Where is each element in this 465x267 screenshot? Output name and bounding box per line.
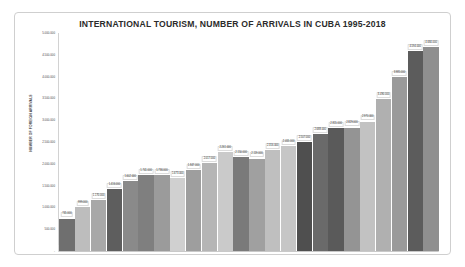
bar-group[interactable]: 2.261.000 [218, 33, 233, 251]
chart-frame: INTERNATIONAL TOURISM, NUMBER OF ARRIVAL… [14, 12, 451, 255]
bar-group[interactable]: 2.017.000 [202, 33, 217, 251]
bar[interactable] [233, 157, 248, 251]
bar-group[interactable]: 1.741.000 [138, 33, 153, 251]
plot-area: 745.000999.0001.170.0001.416.0001.602.00… [59, 33, 439, 251]
bar-value-label: 1.847.000 [186, 164, 201, 169]
y-axis-tick-label: 2.500.000 [21, 141, 55, 144]
bar-value-label: 1.741.000 [139, 169, 154, 174]
bar-group[interactable]: 999.000 [75, 33, 90, 251]
chart-title: INTERNATIONAL TOURISM, NUMBER OF ARRIVAL… [15, 19, 450, 29]
bar[interactable] [297, 142, 312, 251]
y-axis-tick-label: 4.500.000 [21, 53, 55, 56]
bar-value-label: 1.170.000 [91, 193, 106, 198]
bar-value-label: 1.416.000 [107, 183, 122, 188]
bar-value-label: 1.673.000 [170, 171, 185, 176]
bar-value-label: 2.017.000 [202, 156, 217, 161]
y-axis-tick-label: 1.000.000 [21, 206, 55, 209]
bar-value-label: 4.594.000 [408, 44, 423, 49]
bar-group[interactable]: 4.684.000 [423, 33, 438, 251]
y-axis-tick-labels: -500.0001.000.0001.500.0002.000.0002.500… [23, 13, 57, 256]
y-axis-tick-label: 5.000.000 [21, 32, 55, 35]
bar-value-label: 2.316.000 [265, 143, 280, 148]
bar-value-label: 2.119.000 [250, 152, 265, 157]
bar-group[interactable]: 2.507.000 [297, 33, 312, 251]
bar[interactable] [91, 200, 106, 251]
bar-value-label: 3.490.000 [376, 92, 391, 97]
bar-value-label: 2.150.000 [234, 151, 249, 156]
bar[interactable] [360, 122, 375, 251]
y-axis-tick-label: 500.000 [21, 228, 55, 231]
bar[interactable] [313, 134, 328, 251]
y-axis-tick-label: 3.500.000 [21, 97, 55, 100]
bar-group[interactable]: 2.119.000 [249, 33, 264, 251]
bar[interactable] [281, 146, 296, 251]
bar[interactable] [170, 178, 185, 251]
bar-group[interactable]: 1.673.000 [170, 33, 185, 251]
bar[interactable] [218, 152, 233, 251]
bar-group[interactable]: 2.815.000 [328, 33, 343, 251]
bar[interactable] [107, 189, 122, 251]
y-axis-tick-label: 1.500.000 [21, 184, 55, 187]
bar[interactable] [59, 219, 74, 251]
bar-group[interactable]: 2.150.000 [233, 33, 248, 251]
bar-value-label: 2.815.000 [329, 122, 344, 127]
bar[interactable] [75, 207, 90, 251]
y-axis-tick-label: 4.000.000 [21, 75, 55, 78]
bar-group[interactable]: 2.688.000 [313, 33, 328, 251]
bar[interactable] [408, 51, 423, 251]
bar-value-label: 1.736.000 [155, 169, 170, 174]
x-axis-line [58, 251, 439, 252]
bar-group[interactable]: 3.490.000 [376, 33, 391, 251]
bar-value-label: 745.000 [61, 212, 74, 217]
bar[interactable] [265, 150, 280, 251]
bar[interactable] [376, 99, 391, 251]
bar-group[interactable]: 745.000 [59, 33, 74, 251]
bar-value-label: 2.688.000 [313, 127, 328, 132]
bar-group[interactable]: 1.736.000 [154, 33, 169, 251]
bar-value-label: 2.507.000 [297, 135, 312, 140]
bar-value-label: 2.405.000 [281, 140, 296, 145]
bar-group[interactable]: 3.985.000 [392, 33, 407, 251]
bar-group[interactable]: 1.847.000 [186, 33, 201, 251]
bar[interactable] [123, 181, 138, 251]
bar-value-label: 2.261.000 [218, 146, 233, 151]
bar[interactable] [344, 128, 359, 251]
bar[interactable] [328, 128, 343, 251]
bar[interactable] [202, 163, 217, 251]
bar[interactable] [423, 47, 438, 251]
bar[interactable] [186, 170, 201, 251]
y-axis-tick-label: 2.000.000 [21, 162, 55, 165]
y-axis-tick-label: - [21, 250, 55, 253]
bar[interactable] [392, 77, 407, 251]
bar-value-label: 1.602.000 [123, 175, 138, 180]
y-axis-tick-label: 3.000.000 [21, 119, 55, 122]
bar-value-label: 4.684.000 [424, 40, 439, 45]
bar[interactable] [249, 159, 264, 251]
bar-group[interactable]: 2.829.000 [344, 33, 359, 251]
bar-group[interactable]: 4.594.000 [408, 33, 423, 251]
bar-value-label: 2.970.000 [360, 115, 375, 120]
bar-group[interactable]: 1.416.000 [107, 33, 122, 251]
bar-group[interactable]: 1.170.000 [91, 33, 106, 251]
bar-group[interactable]: 2.316.000 [265, 33, 280, 251]
bar-value-label: 2.829.000 [345, 121, 360, 126]
bar[interactable] [154, 175, 169, 251]
bar-group[interactable]: 2.405.000 [281, 33, 296, 251]
bar[interactable] [138, 175, 153, 251]
bar-group[interactable]: 2.970.000 [360, 33, 375, 251]
bar-value-label: 999.000 [76, 201, 89, 206]
bar-group[interactable]: 1.602.000 [123, 33, 138, 251]
bar-value-label: 3.985.000 [392, 71, 407, 76]
